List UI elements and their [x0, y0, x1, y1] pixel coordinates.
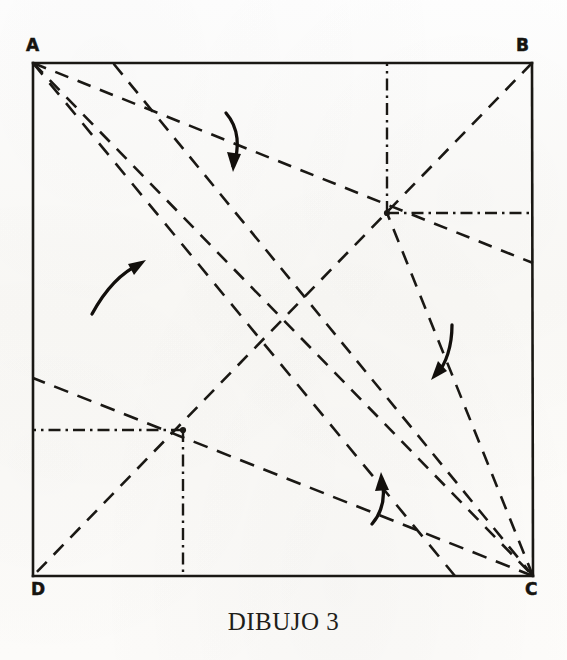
fold-arrow-left — [92, 260, 146, 314]
fold-line-a-upper — [33, 63, 533, 263]
fold-line-c-upper — [113, 63, 533, 576]
edge-BC — [532, 63, 533, 576]
fold-line-a-lower — [33, 63, 455, 576]
upper-node-mark — [384, 210, 390, 216]
lower-node-mark — [180, 427, 186, 433]
fold-arrow-right — [431, 325, 452, 380]
vertex-label-a: A — [26, 37, 39, 54]
vertex-label-d: D — [31, 581, 45, 598]
figure-page: A B C D DIBUJO 3 — [0, 0, 567, 660]
vertex-label-c: C — [525, 581, 537, 598]
vertex-label-b: B — [516, 37, 529, 54]
dashed-fold-lines — [33, 63, 533, 576]
figure-caption: DIBUJO 3 — [0, 608, 567, 636]
fold-line-c-lower — [33, 378, 533, 576]
fold-line-c-steep — [387, 213, 533, 576]
fold-arrow-top — [226, 113, 241, 172]
geometric-figure — [0, 0, 567, 660]
fold-arrows — [92, 113, 452, 524]
